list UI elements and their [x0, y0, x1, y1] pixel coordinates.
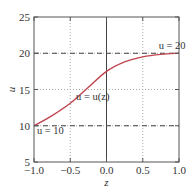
x-tick-label: 1.0 — [172, 164, 186, 176]
y-tick-label: 20 — [19, 47, 31, 59]
chart: −1.0−0.50.00.51.0 510152025 u = 20u = u(… — [0, 0, 194, 193]
x-tick-label: −0.5 — [60, 164, 80, 176]
y-tick-label: 25 — [19, 11, 31, 23]
annotation-label: u = 10 — [37, 125, 64, 136]
x-axis-label: z — [103, 176, 109, 188]
y-tick-label: 10 — [19, 120, 31, 132]
x-tick-label: 0.5 — [136, 164, 150, 176]
y-tick-label: 15 — [19, 84, 31, 96]
y-tick-label: 5 — [25, 156, 31, 168]
annotation-label: u = u(z) — [76, 91, 110, 103]
annotation-label: u = 20 — [159, 40, 186, 51]
x-tick-label: 0.0 — [100, 164, 114, 176]
y-axis-label: u — [5, 86, 17, 92]
